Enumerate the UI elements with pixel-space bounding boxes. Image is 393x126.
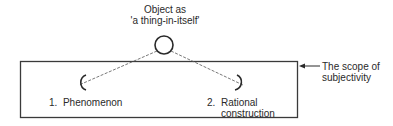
node-phenomenon-label: 1. Phenomenon: [49, 97, 122, 108]
object-circle: [155, 36, 173, 54]
node-rational-construction-label: 2. Rational construction: [207, 97, 275, 119]
scope-arrowhead-icon: [299, 64, 305, 69]
dashed-connector-left: [79, 51, 157, 85]
dashed-connector-right: [171, 51, 243, 85]
object-label: Object as 'a thing-in-itself': [124, 4, 206, 26]
scope-label: The scope of subjectivity: [322, 61, 380, 83]
